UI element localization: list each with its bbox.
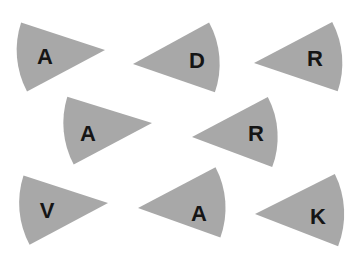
wedge-a-1: A	[17, 22, 105, 91]
wedge-shape	[63, 97, 152, 165]
wedge-shape	[133, 23, 220, 93]
wedge-shape	[254, 22, 342, 91]
wedge-r-1: R	[254, 22, 342, 91]
wedge-shape	[255, 174, 344, 246]
wedge-letter: K	[310, 204, 326, 229]
wedge-a-3: A	[138, 167, 226, 237]
wedge-field: A D R A R V A K	[0, 0, 362, 259]
wedge-v: V	[19, 176, 108, 245]
wedge-letter: R	[307, 46, 323, 71]
wedge-shape	[192, 97, 278, 167]
wedge-letter: A	[37, 44, 53, 69]
wedge-a-2: A	[63, 97, 152, 165]
wedge-shape	[17, 22, 105, 91]
wedge-letter: V	[40, 198, 55, 223]
wedge-k: K	[255, 174, 344, 246]
wedge-letter: R	[248, 121, 264, 146]
wedge-shape	[138, 167, 226, 237]
wedge-r-2: R	[192, 97, 278, 167]
wedge-letter: D	[189, 48, 205, 73]
wedge-canvas: A D R A R V A K	[0, 0, 362, 259]
wedge-letter: A	[191, 201, 207, 226]
wedge-d: D	[133, 23, 220, 93]
wedge-letter: A	[80, 121, 96, 146]
wedge-shape	[19, 176, 108, 245]
